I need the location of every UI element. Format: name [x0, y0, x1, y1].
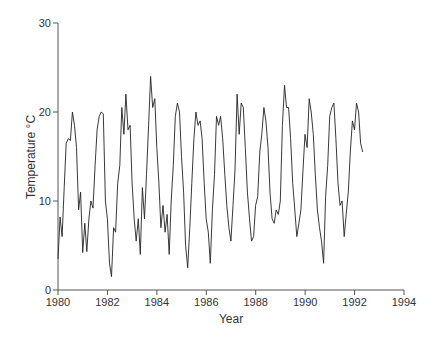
temperature-series-line [58, 76, 363, 276]
x-axis-title: Year [219, 312, 243, 326]
x-tick-label: 1990 [293, 296, 317, 308]
x-tick-label: 1980 [46, 296, 70, 308]
x-tick-label: 1986 [194, 296, 218, 308]
x-tick-label: 1982 [95, 296, 119, 308]
x-tick-label: 1992 [342, 296, 366, 308]
x-axis: 19801982198419861988199019921994 [46, 290, 416, 308]
x-tick-label: 1994 [392, 296, 416, 308]
temperature-line-chart: 0102030 19801982198419861988199019921994… [0, 0, 434, 343]
y-tick-label: 0 [45, 284, 51, 296]
y-axis: 0102030 [39, 17, 58, 296]
y-axis-title: Temperature °C [24, 115, 38, 199]
y-tick-label: 30 [39, 17, 51, 29]
y-tick-label: 20 [39, 106, 51, 118]
y-tick-label: 10 [39, 195, 51, 207]
x-tick-label: 1984 [145, 296, 169, 308]
x-tick-label: 1988 [243, 296, 267, 308]
